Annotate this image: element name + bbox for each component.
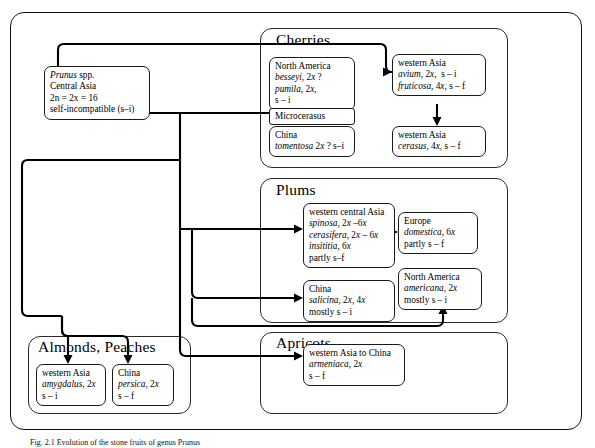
arrowhead-to-apricots <box>294 352 303 361</box>
node-line: mostly s – i <box>404 295 476 306</box>
node-line: s – i <box>42 391 100 402</box>
node-line: pumila, 2x, <box>275 84 349 95</box>
node-china-persica[interactable]: China persica, 2x s – f <box>112 364 174 406</box>
node-line: western central Asia <box>309 207 389 218</box>
node-north-america-cherry[interactable]: North America besseyi, 2x ? pumila, 2x, … <box>269 57 355 111</box>
node-western-asia-cerasus[interactable]: western Asia cerasus, 4x, s – f <box>392 126 486 157</box>
node-line: North America <box>404 272 476 283</box>
root-line-3: self-incompatible (s–i) <box>50 104 144 115</box>
node-western-asia-avium[interactable]: western Asia avium, 2x, s – i fruticosa,… <box>392 54 486 96</box>
node-line: avium, 2x, s – i <box>398 69 480 80</box>
node-line: partly s–f <box>309 253 389 264</box>
node-line: western Asia <box>398 130 480 141</box>
node-line: s – i <box>275 95 349 106</box>
node-line: China <box>309 284 389 295</box>
node-line: insititia, 6x <box>309 241 389 252</box>
arrowhead-to-cerasus <box>433 117 442 126</box>
node-western-central-asia-plum[interactable]: western central Asia spinosa, 2x –6x cer… <box>303 203 395 268</box>
node-line: amygdalus, 2x <box>42 379 100 390</box>
node-line: China <box>275 130 349 141</box>
node-prunus-root[interactable]: Prunus spp. Central Asia 2n = 2x = 16 se… <box>44 66 150 120</box>
node-western-asia-to-china-armeniaca[interactable]: western Asia to China armeniaca, 2x s – … <box>303 344 405 386</box>
node-china-cherry[interactable]: China tomentosa 2x ? s–i <box>269 126 355 157</box>
node-microcerasus[interactable]: Microcerasus <box>269 108 355 125</box>
node-line: s – f <box>309 371 399 382</box>
root-line-2: 2n = 2x = 16 <box>50 93 144 104</box>
node-line: western Asia <box>42 368 100 379</box>
arrowhead-to-persica <box>124 355 133 364</box>
node-line: spinosa, 2x –6x <box>309 218 389 229</box>
node-line: partly s – f <box>404 239 472 250</box>
root-line-1: Central Asia <box>50 81 144 92</box>
node-line: domestica, 6x <box>404 227 472 238</box>
node-line: americana, 2x <box>404 283 476 294</box>
node-china-salicina[interactable]: China salicina, 2x, 4x mostly s – i <box>303 280 395 322</box>
node-north-america-americana[interactable]: North America americana, 2x mostly s – i <box>398 268 482 310</box>
node-western-asia-amygdalus[interactable]: western Asia amygdalus, 2x s – i <box>36 364 106 406</box>
node-line: mostly s – i <box>309 307 389 318</box>
node-line: besseyi, 2x ? <box>275 72 349 83</box>
arrowhead-to-plums-wca <box>294 225 303 234</box>
node-line: tomentosa 2x ? s–i <box>275 141 349 152</box>
node-line: persica, 2x <box>118 379 168 390</box>
node-line: western Asia <box>398 58 480 69</box>
node-line: salicina, 2x, 4x <box>309 295 389 306</box>
arrowhead-to-amygdalus <box>64 355 73 364</box>
root-line-0: Prunus spp. <box>50 70 144 81</box>
node-line: cerasus, 4x, s – f <box>398 141 480 152</box>
node-line: fruticosa, 4x, s – f <box>398 81 480 92</box>
node-line: Microcerasus <box>275 111 349 122</box>
node-line: North America <box>275 61 349 72</box>
node-line: western Asia to China <box>309 348 399 359</box>
node-line: China <box>118 368 168 379</box>
node-line: s – f <box>118 391 168 402</box>
node-line: Europe <box>404 216 472 227</box>
node-europe-domestica[interactable]: Europe domestica, 6x partly s – f <box>398 212 478 254</box>
node-line: armeniaca, 2x <box>309 359 399 370</box>
node-line: cerasifera, 2x – 6x <box>309 230 389 241</box>
arrowhead-to-plums-china <box>294 294 303 303</box>
